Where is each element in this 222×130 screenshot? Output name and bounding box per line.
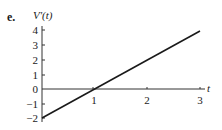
y-tick-label: −2 [24, 112, 38, 124]
x-tick-label: 3 [195, 94, 205, 106]
y-tick-label: 3 [24, 39, 38, 51]
x-tick-label: 1 [89, 94, 99, 106]
y-tick-label: −1 [24, 98, 38, 110]
y-tick-label: 0 [24, 83, 38, 95]
y-tick-label: 2 [24, 54, 38, 66]
data-line [42, 31, 200, 118]
x-tick-label: 2 [142, 94, 152, 106]
y-tick-label: 4 [24, 24, 38, 36]
y-tick-label: 1 [24, 69, 38, 81]
